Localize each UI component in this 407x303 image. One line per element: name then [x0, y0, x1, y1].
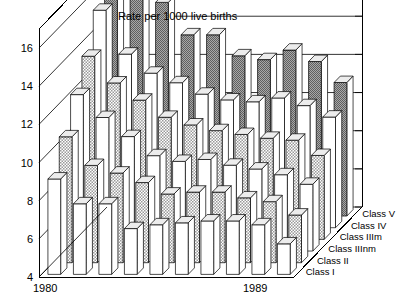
bar-class-i-1987	[226, 215, 245, 275]
y-axis-tick-6: 6	[27, 233, 33, 245]
bar-class-i-1985	[175, 216, 194, 274]
depth-axis-label-class-iv: Class IV	[351, 220, 387, 231]
y-axis-tick-14: 14	[21, 80, 33, 92]
depth-axis-label-class-v: Class V	[362, 208, 395, 219]
depth-axis-label-class-iiim: Class IIIm	[340, 231, 382, 242]
x-axis-label-start: 1980	[33, 282, 57, 294]
three-d-bar-chart: 46810121416Class IClass IIClass IIInmCla…	[0, 0, 407, 303]
chart-container: 46810121416Class IClass IIClass IIInmCla…	[0, 0, 407, 303]
chart-title: Rate per 1000 live births	[118, 10, 238, 22]
depth-axis-label-class-iiinm: Class IIInm	[328, 243, 376, 254]
bar-class-i-1986	[201, 215, 220, 275]
y-axis-tick-10: 10	[21, 157, 33, 169]
bar-class-i-1982	[99, 197, 118, 274]
bar-class-i-1981	[73, 197, 92, 274]
depth-axis-label-class-i: Class I	[306, 266, 335, 277]
bar-class-i-1984	[150, 218, 169, 274]
y-axis-tick-16: 16	[21, 42, 33, 54]
y-axis-tick-12: 12	[21, 118, 33, 130]
depth-axis-label-class-ii: Class II	[317, 255, 349, 266]
bar-class-i-1989	[277, 237, 296, 274]
bar-class-i-1980	[48, 173, 67, 275]
y-axis-tick-8: 8	[27, 195, 33, 207]
bar-class-i-1983	[124, 222, 143, 274]
x-axis-label-end: 1989	[243, 282, 267, 294]
bar-class-i-1988	[252, 218, 271, 274]
